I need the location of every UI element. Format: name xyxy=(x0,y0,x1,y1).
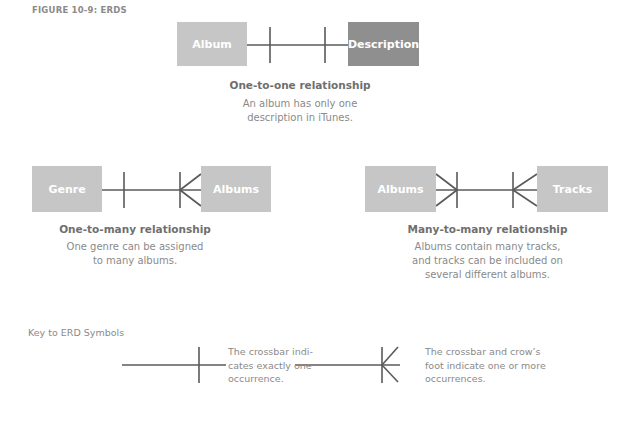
caption-line: description in iTunes. xyxy=(220,111,380,125)
one-to-many-connector xyxy=(102,172,201,208)
entity-tracks: Tracks xyxy=(537,166,608,212)
entity-albums: Albums xyxy=(201,166,271,212)
one-to-one-title: One-to-one relationship xyxy=(220,79,380,91)
key-title: Key to ERD Symbols xyxy=(28,327,124,338)
entity-genre: Genre xyxy=(32,166,102,212)
one-to-one-connector xyxy=(247,27,348,63)
entity-albums-many: Albums xyxy=(365,166,436,212)
many-to-many-description: Albums contain many tracks, and tracks c… xyxy=(395,240,580,282)
key-crossbar-description: The crossbar indi- cates exactly one occ… xyxy=(228,345,338,386)
many-to-many-title: Many-to-many relationship xyxy=(400,223,575,235)
caption-line: An album has only one xyxy=(220,97,380,111)
caption-line: One genre can be assigned xyxy=(50,240,220,254)
one-to-many-title: One-to-many relationship xyxy=(55,223,215,235)
caption-line: and tracks can be included on xyxy=(395,254,580,268)
key-line: occurrence. xyxy=(228,372,338,386)
caption-line: Albums contain many tracks, xyxy=(395,240,580,254)
key-line: The crossbar indi- xyxy=(228,345,338,359)
one-to-many-description: One genre can be assigned to many albums… xyxy=(50,240,220,268)
caption-line: to many albums. xyxy=(50,254,220,268)
key-crossbar-symbol xyxy=(122,347,226,383)
key-line: The crossbar and crow’s xyxy=(425,345,575,359)
key-line: foot indicate one or more xyxy=(425,359,575,373)
caption-line: several different albums. xyxy=(395,268,580,282)
key-line: occurrences. xyxy=(425,372,575,386)
key-line: cates exactly one xyxy=(228,359,338,373)
many-to-many-connector xyxy=(436,172,537,208)
entity-album: Album xyxy=(177,22,247,66)
key-crows-foot-description: The crossbar and crow’s foot indicate on… xyxy=(425,345,575,386)
one-to-one-description: An album has only one description in iTu… xyxy=(220,97,380,125)
entity-description: Description xyxy=(348,22,419,66)
